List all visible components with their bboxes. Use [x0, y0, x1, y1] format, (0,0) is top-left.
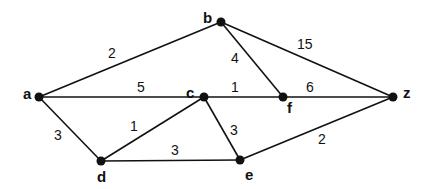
edge-weight-b-z: 15: [297, 36, 313, 52]
edge-d-c: [101, 97, 204, 161]
edge-weight-d-c: 1: [130, 118, 138, 134]
node-c: [200, 93, 209, 102]
edge-weight-d-e: 3: [171, 142, 179, 158]
node-label-f: f: [287, 99, 293, 116]
node-label-b: b: [203, 9, 212, 26]
edge-e-z: [240, 97, 393, 160]
node-a: [35, 93, 44, 102]
node-z: [389, 93, 398, 102]
edge-weight-a-d: 3: [54, 127, 62, 143]
edge-a-d: [39, 97, 101, 161]
edge-d-e: [101, 160, 240, 161]
node-d: [97, 157, 106, 166]
node-label-e: e: [245, 166, 253, 183]
node-label-c: c: [186, 84, 194, 101]
edge-weight-c-f: 1: [231, 79, 239, 95]
graph-svg: 251641531332abcfzde: [0, 0, 431, 189]
edge-weight-a-b: 2: [108, 45, 116, 61]
edge-weight-e-z: 2: [318, 131, 326, 147]
edge-weight-a-c: 5: [137, 79, 145, 95]
edge-weight-c-e: 3: [230, 122, 238, 138]
graph-diagram: 251641531332abcfzde: [0, 0, 431, 189]
node-e: [236, 156, 245, 165]
node-label-d: d: [97, 168, 106, 185]
edge-weight-f-z: 6: [306, 79, 314, 95]
node-label-z: z: [403, 84, 411, 101]
node-label-a: a: [23, 85, 32, 102]
node-b: [217, 18, 226, 27]
edge-weight-b-f: 4: [231, 50, 239, 66]
